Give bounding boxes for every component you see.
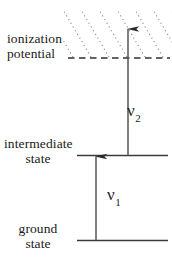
intermediate-state-label-line1: intermediate — [4, 136, 73, 151]
ground-state-label-line2: state — [25, 236, 50, 251]
ionization-potential-label: ionization potential — [7, 31, 62, 61]
continuum-hatching — [44, 8, 172, 62]
intermediate-state-label: intermediate state — [4, 136, 72, 166]
intermediate-state-label-line2: state — [25, 151, 50, 166]
nu2-subscript: 2 — [135, 112, 141, 124]
nu1-symbol: ν — [107, 185, 115, 204]
ionization-potential-label-line2: potential — [7, 46, 55, 61]
nu2-symbol: ν — [127, 101, 135, 120]
ionization-potential-label-line1: ionization — [7, 31, 62, 46]
nu1-label: ν1 — [107, 185, 120, 206]
energy-level-diagram: ionization potential intermediate state … — [0, 0, 172, 267]
nu2-label: ν2 — [127, 101, 140, 122]
ground-state-label: ground state — [4, 221, 72, 251]
nu1-subscript: 1 — [115, 196, 121, 208]
ground-state-label-line1: ground — [19, 221, 58, 236]
